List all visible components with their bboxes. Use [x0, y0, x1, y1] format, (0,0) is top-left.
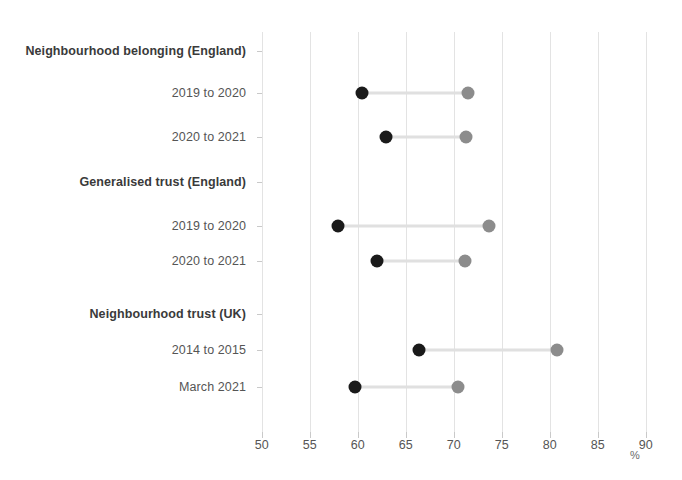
data-point-dark	[379, 131, 392, 144]
category-label-column: Neighbourhood belonging (England)2019 to…	[0, 0, 254, 480]
group-label: Neighbourhood trust (UK)	[89, 307, 246, 321]
gridline-x-80	[550, 32, 551, 432]
gridline-x-90	[646, 32, 647, 432]
data-point-dark	[348, 381, 361, 394]
x-axis-tick-label: 80	[543, 438, 557, 452]
gridline-x-55	[310, 32, 311, 432]
y-tick-mark-group	[257, 182, 262, 183]
data-point-light	[483, 220, 496, 233]
data-point-light	[459, 255, 472, 268]
x-axis-tick-label: 70	[447, 438, 461, 452]
data-point-light	[451, 381, 464, 394]
row-label: 2020 to 2021	[172, 130, 246, 144]
y-tick-mark-row	[257, 137, 262, 138]
x-axis-unit-label: %	[630, 449, 640, 461]
x-axis-tick-label: 85	[591, 438, 605, 452]
connector-line	[355, 386, 458, 389]
gridline-x-75	[502, 32, 503, 432]
x-axis-tick-label: 90	[639, 438, 653, 452]
y-tick-mark-row	[257, 93, 262, 94]
data-point-dark	[332, 220, 345, 233]
y-tick-mark-row	[257, 261, 262, 262]
y-tick-mark-row	[257, 350, 262, 351]
x-axis-tick-label: 75	[495, 438, 509, 452]
connector-line	[338, 225, 489, 228]
y-tick-mark-row	[257, 226, 262, 227]
row-label: 2014 to 2015	[172, 343, 246, 357]
connector-line	[419, 349, 557, 352]
group-label: Generalised trust (England)	[79, 175, 246, 189]
row-label: 2019 to 2020	[172, 219, 246, 233]
x-axis-tick-label: 50	[255, 438, 269, 452]
row-label: 2020 to 2021	[172, 254, 246, 268]
row-label: March 2021	[179, 380, 246, 394]
connector-line	[362, 92, 468, 95]
data-point-dark	[370, 255, 383, 268]
x-axis-tick-label: 60	[351, 438, 365, 452]
connector-line	[386, 136, 467, 139]
y-tick-mark-group	[257, 51, 262, 52]
y-tick-mark-row	[257, 387, 262, 388]
chart-container: Neighbourhood belonging (England)2019 to…	[0, 0, 682, 480]
row-label: 2019 to 2020	[172, 86, 246, 100]
gridline-x-50	[262, 32, 263, 432]
data-point-light	[460, 131, 473, 144]
connector-line	[377, 260, 465, 263]
y-tick-mark-group	[257, 314, 262, 315]
x-axis-tick-label: 55	[303, 438, 317, 452]
group-label: Neighbourhood belonging (England)	[25, 44, 246, 58]
data-point-dark	[413, 344, 426, 357]
data-point-light	[551, 344, 564, 357]
data-point-dark	[356, 87, 369, 100]
x-axis-tick-label: 65	[399, 438, 413, 452]
gridline-x-85	[598, 32, 599, 432]
plot-area: 505560657075808590	[262, 32, 646, 432]
data-point-light	[462, 87, 475, 100]
